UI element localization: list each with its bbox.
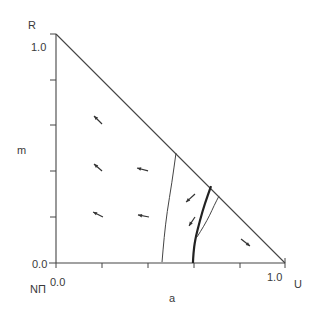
y-tick-label-bottom: 0.0 (32, 258, 47, 270)
arrow-icon (189, 217, 195, 226)
hypotenuse-boundary (56, 34, 285, 263)
y-axis-label: m (17, 144, 26, 156)
vector-field-arrows (93, 116, 250, 246)
arrow-icon (137, 167, 148, 171)
boundary-1-curve (162, 153, 176, 262)
y-tick-label-top: 1.0 (31, 41, 46, 53)
plot-canvas: R 1.0 m 0.0 NΠ 0.0 a 1.0 U (0, 0, 316, 316)
arrow-icon (138, 214, 149, 218)
vertex-label-u: U (294, 278, 302, 290)
vertex-label-origin: NΠ (30, 283, 46, 295)
x-tick-label-left: 0.0 (50, 276, 65, 288)
arrow-icon (241, 239, 250, 246)
x-axis-label: a (169, 292, 176, 304)
phase-diagram: R 1.0 m 0.0 NΠ 0.0 a 1.0 U (0, 0, 316, 316)
boundary-2-curve (193, 186, 211, 263)
arrow-icon (93, 212, 103, 217)
arrow-icon (94, 116, 102, 124)
y-ticks (49, 34, 56, 263)
vertex-label-r: R (28, 19, 36, 31)
arrow-icon (186, 194, 195, 202)
x-tick-label-right: 1.0 (267, 271, 282, 283)
boundary-curves (162, 153, 219, 263)
arrow-icon (94, 164, 102, 171)
